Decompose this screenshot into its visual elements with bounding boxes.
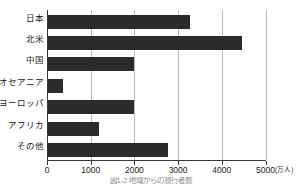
gridline-3000 — [178, 10, 179, 160]
bar-china — [47, 57, 134, 71]
x-axis-label-4000: 4000 — [212, 166, 231, 175]
bar-oceania — [47, 79, 63, 93]
x-axis-label-1000: 1000 — [81, 166, 100, 175]
gridline-4000 — [222, 10, 223, 160]
y-axis-label-4: ヨーロッパ — [0, 99, 44, 108]
x-axis-line — [47, 160, 266, 161]
bar-other — [47, 143, 168, 157]
figure-caption: 図1-2 地域からの旅行者数 — [0, 177, 302, 185]
gridline-2000 — [134, 10, 135, 160]
bar-europe — [47, 100, 134, 114]
y-axis-label-3: オセアニア — [0, 78, 44, 87]
x-axis-label-0: 0 — [45, 166, 50, 175]
y-axis-label-5: アフリカ — [0, 121, 44, 130]
x-axis-label-3000: 3000 — [169, 166, 188, 175]
bar-north-america — [47, 36, 242, 50]
bar-japan — [47, 15, 190, 29]
x-axis-label-2000: 2000 — [125, 166, 144, 175]
y-axis-label-6: その他 — [0, 142, 44, 151]
plot-area — [47, 10, 266, 160]
x-axis-label-5000: 5000 — [256, 166, 275, 175]
gridline-1000 — [91, 10, 92, 160]
bar-africa — [47, 122, 99, 136]
y-axis-label-2: 中国 — [0, 56, 44, 65]
y-axis-label-1: 北米 — [0, 35, 44, 44]
bar-chart: 日本 北米 中国 オセアニア ヨーロッパ アフリカ その他 — [0, 0, 302, 186]
y-axis-line — [47, 10, 48, 161]
gridline-5000 — [266, 10, 267, 160]
y-axis-label-0: 日本 — [0, 14, 44, 23]
x-axis-unit-label: (万人) — [275, 167, 293, 174]
